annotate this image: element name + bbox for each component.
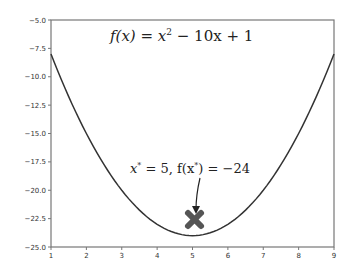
y-tick-label: −7.5 xyxy=(29,45,46,53)
y-tick-label: −17.5 xyxy=(25,158,46,166)
plot-frame xyxy=(51,20,334,247)
x-tick-label: 9 xyxy=(332,252,336,260)
x-tick-label: 2 xyxy=(84,252,88,260)
function-title: f(x) = x2 − 10x + 1 xyxy=(109,27,253,45)
x-tick-label: 1 xyxy=(49,252,53,260)
x-tick-label: 8 xyxy=(296,252,300,260)
y-axis: −5.0−7.5−10.0−12.5−15.0−17.5−20.0−22.5−2… xyxy=(25,17,51,252)
x-tick-label: 5 xyxy=(190,252,194,260)
minimum-annotation: x* = 5, f(x*) = −24 xyxy=(130,161,250,176)
chart: −5.0−7.5−10.0−12.5−15.0−17.5−20.0−22.5−2… xyxy=(0,0,355,266)
x-tick-label: 7 xyxy=(261,252,265,260)
y-tick-label: −15.0 xyxy=(25,130,46,138)
x-tick-label: 6 xyxy=(226,252,231,260)
x-axis: 123456789 xyxy=(49,247,336,260)
x-tick-label: 4 xyxy=(155,252,160,260)
y-tick-label: −25.0 xyxy=(25,244,46,252)
y-tick-label: −22.5 xyxy=(25,215,46,223)
y-tick-label: −12.5 xyxy=(25,102,46,110)
y-tick-label: −5.0 xyxy=(29,17,46,25)
x-tick-label: 3 xyxy=(120,252,124,260)
y-tick-label: −10.0 xyxy=(25,73,46,81)
y-tick-label: −20.0 xyxy=(25,187,46,195)
